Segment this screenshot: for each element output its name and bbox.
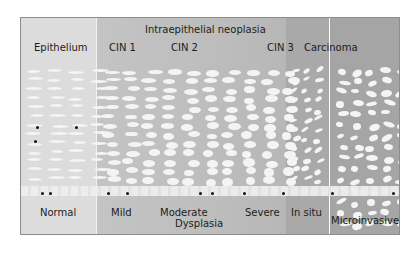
cell <box>122 71 136 75</box>
cell <box>27 70 40 73</box>
cell <box>244 141 256 148</box>
cell <box>246 104 256 110</box>
label-in-situ: In situ <box>291 207 322 218</box>
cell <box>95 152 108 155</box>
nucleus-dot <box>282 192 285 195</box>
cell <box>163 133 174 140</box>
cell <box>221 132 233 138</box>
cell <box>126 151 140 157</box>
cell <box>50 132 68 135</box>
nucleus-dot <box>49 192 52 195</box>
cell <box>51 150 63 153</box>
cell <box>167 178 178 185</box>
cell <box>128 86 141 91</box>
cell <box>68 98 81 101</box>
cell <box>164 149 176 155</box>
cell <box>149 149 160 155</box>
nucleus-dot <box>41 192 44 195</box>
cell <box>162 105 175 110</box>
cell <box>126 178 138 184</box>
cell <box>397 199 400 206</box>
cell <box>267 88 280 95</box>
cell <box>143 160 155 166</box>
cell <box>51 96 65 99</box>
cell <box>68 71 84 74</box>
cell <box>106 78 121 81</box>
cell <box>247 114 258 120</box>
cell <box>73 141 85 144</box>
cell <box>354 78 362 84</box>
cell <box>223 96 236 102</box>
cell <box>108 176 122 181</box>
cell <box>264 168 274 176</box>
cell <box>182 114 193 120</box>
cell <box>384 156 394 163</box>
neoplasia-diagram: Intraepithelial neoplasia Epithelium CIN… <box>20 17 400 235</box>
cell <box>125 115 137 120</box>
cell <box>163 169 175 175</box>
label-dysplasia: Dysplasia <box>175 218 223 229</box>
nucleus-dot <box>126 192 129 195</box>
label-cin2: CIN 2 <box>171 42 198 53</box>
cell <box>184 89 198 95</box>
cell <box>243 158 255 166</box>
cell <box>242 151 251 158</box>
cell <box>222 160 234 167</box>
cell <box>222 168 232 175</box>
nucleus-dot <box>392 192 395 195</box>
cell <box>106 105 119 110</box>
label-severe: Severe <box>245 207 280 218</box>
nucleus-dot <box>211 192 214 195</box>
cell <box>163 88 177 93</box>
divider-epithelium <box>96 18 97 234</box>
cell <box>166 142 178 149</box>
cell <box>399 165 400 171</box>
cell <box>248 124 259 131</box>
cell <box>90 80 108 83</box>
nucleus-dot <box>34 140 37 143</box>
cell <box>187 71 200 76</box>
cell <box>122 96 136 101</box>
cell <box>206 70 219 76</box>
cell <box>263 107 275 114</box>
cell <box>105 71 119 75</box>
cell <box>162 114 173 119</box>
cell <box>142 114 155 120</box>
cell <box>189 107 201 113</box>
cell <box>261 79 272 85</box>
cell <box>28 178 42 181</box>
cell <box>72 87 85 90</box>
cell <box>223 143 234 150</box>
nucleus-dot <box>107 192 110 195</box>
cell <box>353 123 361 130</box>
cell <box>168 69 181 74</box>
cell <box>142 177 153 184</box>
cell <box>30 114 45 117</box>
cell <box>68 132 84 135</box>
cell <box>262 151 272 159</box>
cell <box>181 124 193 130</box>
label-mild: Mild <box>111 207 132 218</box>
label-epithelium: Epithelium <box>34 42 88 53</box>
label-cin3: CIN 3 <box>267 42 294 53</box>
cell <box>247 70 260 76</box>
cell <box>102 132 115 137</box>
cell <box>52 125 69 128</box>
cell <box>186 78 198 84</box>
cell <box>267 141 278 149</box>
cell <box>141 123 153 128</box>
nucleus-dot <box>331 192 334 195</box>
cell <box>104 86 118 90</box>
nucleus-dot <box>36 126 39 129</box>
cell <box>366 155 378 161</box>
cell <box>224 115 237 122</box>
nucleus-dot <box>199 192 202 195</box>
cell <box>228 123 241 130</box>
cell <box>395 179 400 184</box>
cell <box>183 149 194 155</box>
cell <box>207 141 219 148</box>
cell <box>207 160 218 168</box>
cell <box>207 122 219 129</box>
nucleus-dot <box>243 192 246 195</box>
label-microinvasive: Microinvasive <box>331 215 399 226</box>
